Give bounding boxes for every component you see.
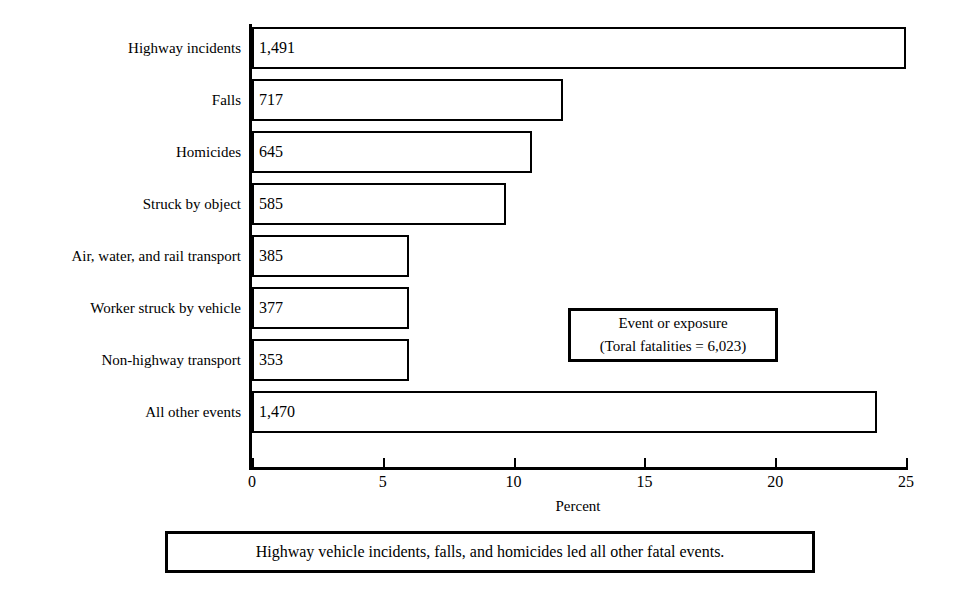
bar [252,391,877,433]
bar [252,79,563,121]
bar-row: Falls717 [252,79,906,121]
legend-line-2: (Toral fatalities = 6,023) [600,335,747,358]
bar-value-label: 1,491 [259,39,295,57]
x-axis-tick [644,458,646,467]
bar [252,183,506,225]
x-axis-tick-label: 20 [745,472,805,492]
legend-box: Event or exposure (Toral fatalities = 6,… [568,308,778,362]
bar-category-label: Air, water, and rail transport [71,247,241,265]
bar-row: Struck by object585 [252,183,906,225]
bar-category-label: Non-highway transport [101,351,241,369]
bar-category-label: Falls [212,91,241,109]
x-axis-title: Percent [518,498,638,515]
bar-value-label: 717 [259,91,283,109]
x-axis-tick-label: 0 [222,472,282,492]
x-axis-tick [775,458,777,467]
caption-text: Highway vehicle incidents, falls, and ho… [256,543,725,561]
caption-box: Highway vehicle incidents, falls, and ho… [165,531,815,573]
bar-row: All other events1,470 [252,391,906,433]
bar-category-label: Homicides [176,143,241,161]
x-axis-line [252,467,908,470]
x-axis-tick-label: 25 [876,472,936,492]
bar-value-label: 353 [259,351,283,369]
bar-value-label: 377 [259,299,283,317]
bar-category-label: All other events [145,403,241,421]
bar-category-label: Struck by object [143,195,241,213]
bar-category-label: Highway incidents [128,39,241,57]
x-axis-tick-label: 5 [353,472,413,492]
bar [252,27,906,69]
bar-row: Air, water, and rail transport385 [252,235,906,277]
x-axis-tick [383,458,385,467]
x-axis-tick [514,458,516,467]
x-axis-tick-label: 15 [614,472,674,492]
bar-category-label: Worker struck by vehicle [90,299,241,317]
bar-value-label: 645 [259,143,283,161]
bar-value-label: 1,470 [259,403,295,421]
legend-line-1: Event or exposure [618,312,727,335]
bar-row: Highway incidents1,491 [252,27,906,69]
x-axis-tick [252,458,254,467]
bar-value-label: 385 [259,247,283,265]
bar [252,131,532,173]
bar-row: Homicides645 [252,131,906,173]
x-axis-tick [906,458,908,467]
bar-value-label: 585 [259,195,283,213]
plot-area: Highway incidents1,491Falls717Homicides6… [252,27,906,467]
bar-chart-figure: Highway incidents1,491Falls717Homicides6… [0,0,955,602]
x-axis-tick-label: 10 [484,472,544,492]
